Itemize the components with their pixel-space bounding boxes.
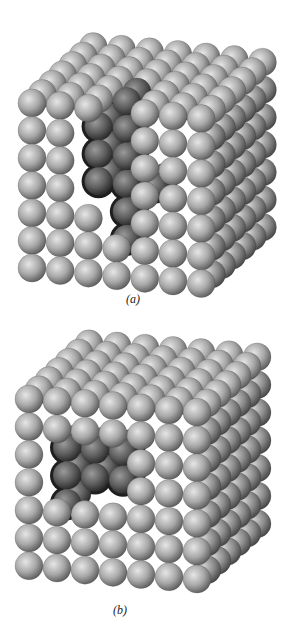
atom-sphere: [46, 174, 74, 202]
atom-sphere: [155, 563, 183, 591]
atom-sphere: [155, 479, 183, 507]
atom-sphere: [159, 102, 187, 130]
atom-sphere: [187, 270, 215, 298]
atom-sphere: [15, 385, 43, 413]
atom-sphere: [131, 127, 159, 155]
atom-sphere: [85, 167, 113, 195]
atom-sphere: [53, 461, 81, 489]
atom-sphere: [15, 441, 43, 469]
atom-sphere: [18, 89, 46, 117]
atom-sphere: [127, 394, 155, 422]
atom-sphere: [71, 556, 99, 584]
atom-sphere: [99, 419, 127, 447]
panel-b: (b): [0, 310, 289, 634]
atom-sphere: [43, 554, 71, 582]
atom-sphere: [71, 501, 99, 529]
atom-sphere: [99, 392, 127, 420]
atom-sphere: [127, 477, 155, 505]
atom-sphere: [155, 424, 183, 452]
atom-sphere: [187, 187, 215, 215]
atom-sphere: [159, 212, 187, 240]
atom-sphere: [159, 130, 187, 158]
atom-sphere: [15, 496, 43, 524]
atom-sphere: [18, 144, 46, 172]
atom-sphere: [74, 94, 102, 122]
atom-sphere: [103, 262, 131, 290]
atom-sphere: [103, 234, 131, 262]
atom-sphere: [18, 117, 46, 145]
atom-sphere: [43, 387, 71, 415]
atom-sphere: [43, 415, 71, 443]
atom-sphere: [46, 92, 74, 120]
panel-a-caption: (a): [126, 292, 140, 307]
atom-sphere: [187, 160, 215, 188]
atom-sphere: [131, 237, 159, 265]
atom-sphere: [15, 413, 43, 441]
sphere-cube-cavity-diagram: [0, 310, 289, 634]
sphere-cube-vacancy-diagram: [0, 0, 289, 310]
atom-sphere: [187, 242, 215, 270]
atom-sphere: [159, 267, 187, 295]
atom-sphere: [99, 503, 127, 531]
atom-sphere: [71, 389, 99, 417]
atom-sphere: [18, 199, 46, 227]
atom-sphere: [183, 398, 211, 426]
atom-sphere: [187, 215, 215, 243]
atom-sphere: [46, 119, 74, 147]
atom-sphere: [43, 526, 71, 554]
atom-sphere: [71, 528, 99, 556]
atom-sphere: [183, 565, 211, 593]
atom-sphere: [187, 105, 215, 133]
atom-sphere: [15, 552, 43, 580]
atom-sphere: [46, 147, 74, 175]
atom-sphere: [18, 227, 46, 255]
atom-sphere: [155, 396, 183, 424]
atom-sphere: [131, 154, 159, 182]
atom-sphere: [18, 172, 46, 200]
atom-sphere: [155, 535, 183, 563]
atom-sphere: [43, 498, 71, 526]
panel-a: (a): [0, 0, 289, 310]
atom-sphere: [85, 140, 113, 168]
atom-sphere: [18, 254, 46, 282]
atom-sphere: [127, 561, 155, 589]
atom-sphere: [159, 157, 187, 185]
atom-sphere: [74, 259, 102, 287]
atom-sphere: [131, 209, 159, 237]
atom-sphere: [99, 531, 127, 559]
atom-sphere: [127, 422, 155, 450]
atom-sphere: [187, 132, 215, 160]
atom-sphere: [46, 202, 74, 230]
atom-sphere: [74, 232, 102, 260]
atom-sphere: [127, 449, 155, 477]
atom-sphere: [155, 452, 183, 480]
atom-sphere: [183, 509, 211, 537]
atom-sphere: [131, 182, 159, 210]
atom-sphere: [159, 185, 187, 213]
atom-sphere: [127, 505, 155, 533]
atom-sphere: [81, 464, 109, 492]
atom-sphere: [183, 426, 211, 454]
panel-b-caption: (b): [113, 603, 127, 618]
atom-sphere: [131, 99, 159, 127]
atom-sphere: [15, 524, 43, 552]
atom-sphere: [131, 264, 159, 292]
atom-sphere: [183, 454, 211, 482]
atom-sphere: [71, 417, 99, 445]
atom-sphere: [127, 533, 155, 561]
atom-sphere: [155, 507, 183, 535]
atom-sphere: [46, 229, 74, 257]
atom-sphere: [46, 257, 74, 285]
atom-sphere: [183, 537, 211, 565]
atom-sphere: [99, 558, 127, 586]
atom-sphere: [74, 204, 102, 232]
atom-sphere: [183, 482, 211, 510]
atom-sphere: [159, 240, 187, 268]
atom-sphere: [15, 468, 43, 496]
